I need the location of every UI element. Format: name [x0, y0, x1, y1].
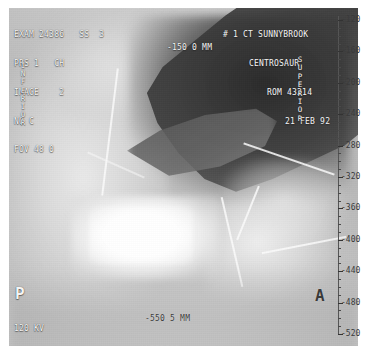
scale-label: -400: [341, 236, 360, 244]
scale-tick-minor: [338, 99, 341, 100]
scale-tick-minor: [338, 91, 341, 92]
orientation-marker-posterior: P: [15, 286, 25, 302]
scale-tick-minor: [338, 287, 341, 288]
modality-banner: # 1 CT SUNNYBROOK: [223, 30, 330, 40]
scale-tick-minor: [338, 295, 341, 296]
fov-line: FOV 48 0: [14, 145, 104, 155]
scale-tick-minor: [338, 161, 341, 162]
ct-scout-image: EXAM 24386 SS 3 PRS 1 CH IMAGE 2 NO C FO…: [9, 8, 358, 346]
orientation-inferior: INFERIOR: [18, 62, 28, 128]
orientation-letter: R: [18, 119, 28, 127]
scale-tick-minor: [338, 248, 341, 249]
scale-tick-minor: [338, 232, 341, 233]
scale-tick-minor: [338, 326, 341, 327]
scale-tick-minor: [338, 169, 341, 170]
scale-tick-minor: [338, 224, 341, 225]
scale-tick-minor: [338, 122, 341, 123]
rom-number: ROM 43214: [223, 88, 330, 98]
scale-tick-minor: [338, 201, 341, 202]
scale-label: -120: [341, 16, 360, 24]
scale-tick-minor: [338, 263, 341, 264]
scale-tick-minor: [338, 106, 341, 107]
scale-label: -160: [341, 47, 360, 55]
orientation-letter: R: [295, 115, 305, 123]
scale-tick-minor: [338, 185, 341, 186]
scale-tick-minor: [338, 256, 341, 257]
kv-value: 120 KV: [14, 324, 69, 334]
orientation-marker-anterior: A: [315, 288, 325, 304]
scale-tick-minor: [338, 318, 341, 319]
scale-tick-minor: [338, 193, 341, 194]
scale-label: -480: [341, 299, 360, 307]
technique-parameters-block: 120 KV 120 MA AZ 0 0 TILT 75 0 MM/S 23 2…: [14, 305, 69, 346]
scale-label: -200: [341, 79, 360, 87]
orientation-superior: SUPERIOR: [295, 56, 305, 123]
scale-label: -440: [341, 267, 360, 275]
scale-tick-minor: [338, 75, 341, 76]
scale-label: -240: [341, 110, 360, 118]
scale-tick-minor: [338, 44, 341, 45]
scale-tick-minor: [338, 310, 341, 311]
slice-position-top: -150 0 MM: [167, 43, 212, 53]
scale-tick-minor: [338, 130, 341, 131]
scale-label: -360: [341, 204, 360, 212]
scale-tick-minor: [338, 36, 341, 37]
study-date: 21 FEB 92: [223, 117, 330, 127]
scale-tick-minor: [338, 28, 341, 29]
scale-tick-minor: [338, 59, 341, 60]
scale-label: -520: [341, 330, 360, 338]
scale-tick-minor: [338, 138, 341, 139]
scale-tick-minor: [338, 216, 341, 217]
scale-tick-minor: [338, 279, 341, 280]
institution-name: CENTROSAUR: [223, 59, 330, 69]
slice-position-bottom: -550 5 MM: [145, 314, 190, 324]
scale-tick-minor: [338, 67, 341, 68]
exam-line: EXAM 24386 SS 3: [14, 30, 104, 40]
scale-label: -280: [341, 142, 360, 150]
header-right-block: # 1 CT SUNNYBROOK CENTROSAUR ROM 43214 2…: [223, 11, 330, 145]
scale-tick-minor: [338, 153, 341, 154]
position-scale: -120-160-200-240-280-320-360-400-440-480…: [338, 8, 376, 346]
scale-label: -320: [341, 173, 360, 181]
